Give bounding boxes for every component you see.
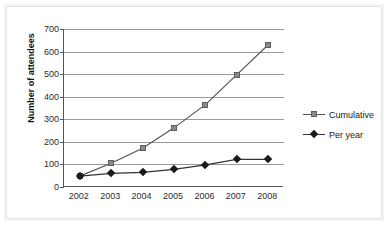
- series-line: [80, 45, 269, 176]
- y-tick-mark: [60, 187, 64, 188]
- data-point-marker: [234, 72, 240, 78]
- y-tick-label: 100: [25, 160, 59, 169]
- chart-legend: CumulativePer year: [303, 105, 387, 145]
- legend-item[interactable]: Per year: [303, 125, 387, 145]
- y-axis-tick-labels: 0100200300400500600700: [21, 29, 59, 187]
- y-tick-label: 400: [25, 92, 59, 101]
- y-tick-label: 700: [25, 25, 59, 34]
- square-marker-icon: [303, 109, 325, 121]
- series-lines: [64, 29, 284, 187]
- legend-label: Cumulative: [329, 110, 374, 120]
- x-tick-label: 2008: [247, 191, 287, 201]
- plot-area: [63, 29, 283, 187]
- y-tick-label: 500: [25, 70, 59, 79]
- data-point-marker: [171, 125, 177, 131]
- data-point-marker: [265, 42, 271, 48]
- chart-figure: Number of attendees 01002003004005006007…: [0, 0, 388, 225]
- diamond-marker-icon: [303, 129, 325, 141]
- chart-frame: Number of attendees 01002003004005006007…: [6, 6, 382, 219]
- legend-label: Per year: [329, 130, 363, 140]
- y-tick-label: 200: [25, 137, 59, 146]
- x-axis-tick-labels: 2002200320042005200620072008: [63, 191, 283, 205]
- legend-item[interactable]: Cumulative: [303, 105, 387, 125]
- y-tick-label: 600: [25, 47, 59, 56]
- data-point-marker: [108, 160, 114, 166]
- data-point-marker: [202, 102, 208, 108]
- data-point-marker: [140, 145, 146, 151]
- y-tick-label: 300: [25, 115, 59, 124]
- y-tick-label: 0: [25, 183, 59, 192]
